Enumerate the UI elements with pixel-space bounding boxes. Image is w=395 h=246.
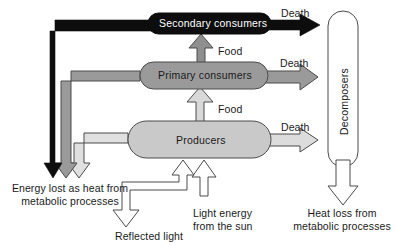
food-arrow-primary-to-secondary	[189, 34, 213, 64]
decomposers-heat-loss-arrow	[328, 160, 358, 205]
producers-heat-loss-arrow	[68, 133, 128, 178]
secondary-consumers-label: Secondary consumers	[159, 17, 267, 29]
decomposers-label: Decomposers	[338, 68, 350, 135]
death-label-secondary: Death	[281, 7, 310, 19]
heat-loss-right-line1: Heat loss from	[290, 207, 394, 219]
food-arrow-producers-to-primary	[187, 87, 213, 122]
reflected-light-label: Reflected light	[115, 230, 183, 242]
food-label-to-secondary: Food	[218, 45, 242, 57]
producers-label: Producers	[176, 134, 226, 146]
heat-loss-left-line2: metabolic processes	[6, 195, 134, 207]
primary-consumers-label: Primary consumers	[158, 69, 252, 81]
heat-loss-right-line2: metabolic processes	[290, 220, 394, 232]
food-label-to-primary: Food	[218, 103, 242, 115]
light-energy-arrow	[192, 160, 216, 196]
heat-loss-left-line1: Energy lost as heat from	[6, 182, 134, 194]
death-label-primary: Death	[280, 57, 309, 69]
primary-consumers-heat-loss-arrow	[55, 71, 140, 178]
death-label-producers: Death	[281, 121, 310, 133]
energy-flow-diagram: .stroke-out { stroke: #4a4a4a; stroke-wi…	[0, 0, 395, 246]
light-energy-label-line1: Light energy	[193, 207, 252, 219]
light-energy-label-line2: from the sun	[193, 220, 253, 232]
